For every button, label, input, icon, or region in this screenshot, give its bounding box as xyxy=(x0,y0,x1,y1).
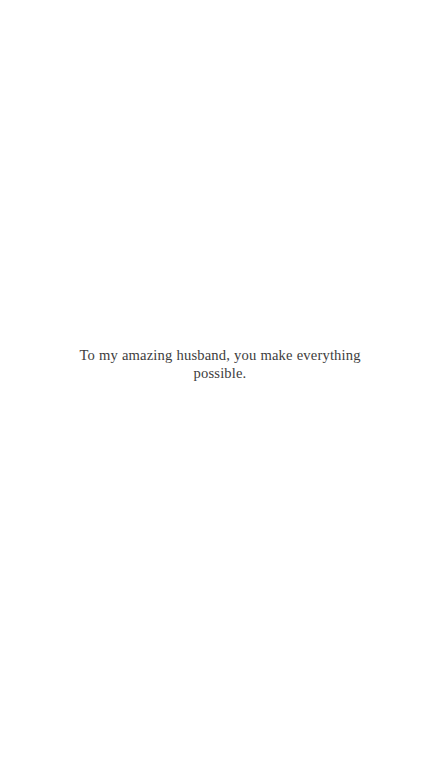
page-canvas: To my amazing husband, you make everythi… xyxy=(0,0,440,766)
message-block: To my amazing husband, you make everythi… xyxy=(70,346,370,382)
message-text: To my amazing husband, you make everythi… xyxy=(70,346,370,382)
